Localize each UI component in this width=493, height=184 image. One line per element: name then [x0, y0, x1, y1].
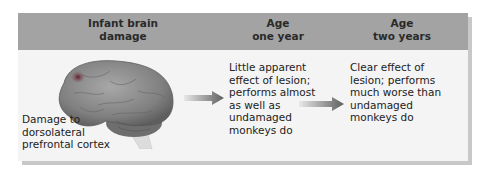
diagram-frame: Infant brain damage Age one year Age two…	[18, 13, 468, 161]
text-line: effect of lesion;	[229, 74, 339, 87]
caption-damage-dlpfc: Damage to dorsolateral prefrontal cortex	[22, 113, 162, 151]
header-line: Age	[218, 17, 338, 30]
text-line: monkeys do	[229, 124, 339, 137]
caption-line: Damage to	[22, 113, 162, 126]
right-arrow-icon	[184, 91, 224, 105]
header-line: Age	[336, 17, 468, 30]
text-line: much worse than	[350, 86, 460, 99]
header-line: Infant brain	[48, 17, 198, 30]
header-line: damage	[48, 30, 198, 43]
text-line: Clear effect of	[350, 61, 460, 74]
right-arrow-icon	[299, 97, 344, 111]
text-line: undamaged	[350, 99, 460, 112]
text-line: monkeys do	[350, 111, 460, 124]
caption-line: dorsolateral	[22, 126, 162, 139]
text-line: Little apparent	[229, 61, 339, 74]
header-infant-brain-damage: Infant brain damage	[48, 17, 198, 43]
header-line: one year	[218, 30, 338, 43]
text-line: lesion; performs	[350, 74, 460, 87]
header-age-one-year: Age one year	[218, 17, 338, 43]
text-line: undamaged	[229, 111, 339, 124]
header-age-two-years: Age two years	[336, 17, 468, 43]
header-row: Infant brain damage Age one year Age two…	[18, 13, 468, 50]
caption-line: prefrontal cortex	[22, 138, 162, 151]
two-years-description: Clear effect of lesion; performs much wo…	[350, 61, 460, 124]
header-line: two years	[336, 30, 468, 43]
